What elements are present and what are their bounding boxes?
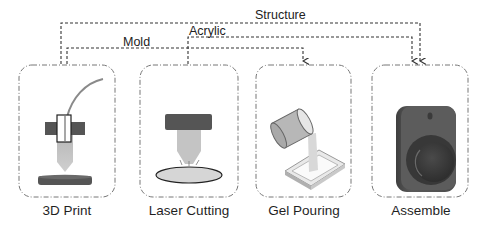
process-diagram: Structure Acrylic Mold 3D Print Laser Cu…	[0, 0, 484, 226]
gel-pouring-icon	[268, 107, 345, 190]
step-label-assemble: Assemble	[391, 204, 450, 218]
connector-acrylic	[188, 37, 412, 64]
step-label-laser-cutting: Laser Cutting	[149, 204, 229, 218]
connector-label-structure: Structure	[255, 9, 306, 22]
3d-printer-icon	[38, 79, 103, 185]
step-label-3d-print: 3D Print	[43, 204, 92, 218]
connector-structure	[61, 23, 420, 64]
step-label-gel-pouring: Gel Pouring	[268, 204, 339, 218]
diagram-canvas	[0, 0, 484, 226]
connector-mold	[67, 48, 303, 64]
laser-cutter-icon	[156, 114, 222, 183]
connector-label-mold: Mold	[123, 36, 150, 49]
assembled-device-icon	[396, 106, 456, 192]
connector-label-acrylic: Acrylic	[189, 25, 226, 38]
